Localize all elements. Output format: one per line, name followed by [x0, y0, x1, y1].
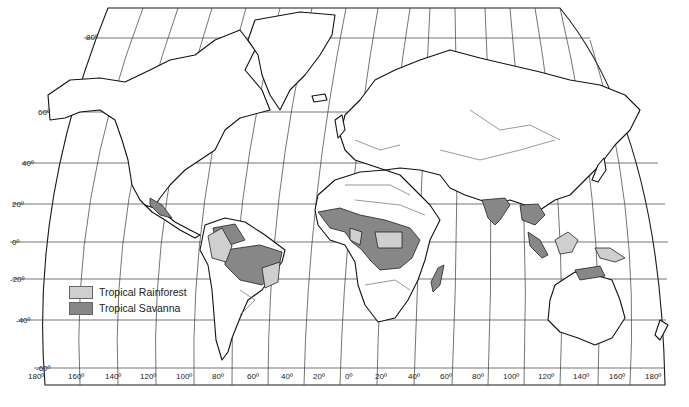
svg-text:80º: 80º	[86, 33, 98, 42]
svg-text:-40º: -40º	[16, 316, 31, 325]
madagascar	[431, 265, 444, 292]
iceland	[312, 94, 327, 102]
svg-text:40º: 40º	[22, 159, 34, 168]
svg-text:80º: 80º	[212, 372, 224, 381]
svg-text:160º: 160º	[609, 372, 625, 381]
legend-label: Tropical Savanna	[99, 302, 180, 314]
svg-text:180º: 180º	[28, 372, 44, 381]
svg-text:100º: 100º	[503, 372, 519, 381]
svg-text:60º: 60º	[440, 372, 452, 381]
svg-text:20º: 20º	[12, 200, 24, 209]
svg-text:140º: 140º	[105, 372, 121, 381]
map-legend: Tropical Rainforest Tropical Savanna	[69, 284, 187, 316]
svg-text:-20º: -20º	[10, 275, 25, 284]
svg-text:0º: 0º	[12, 238, 19, 247]
svg-text:160º: 160º	[68, 372, 84, 381]
central-america	[145, 205, 200, 238]
svg-text:60º: 60º	[247, 372, 259, 381]
savanna-swatch	[69, 302, 93, 315]
svg-text:0º: 0º	[345, 372, 352, 381]
svg-text:140º: 140º	[573, 372, 589, 381]
svg-text:120º: 120º	[140, 372, 156, 381]
svg-text:40º: 40º	[408, 372, 420, 381]
legend-item-rainforest: Tropical Rainforest	[69, 284, 187, 300]
world-map: 80º 60º 40º 20º 0º -20º -40º -60º 180º 1…	[0, 0, 689, 407]
longitude-labels: 180º 160º 140º 120º 100º 80º 60º 40º 20º…	[28, 372, 661, 381]
svg-text:20º: 20º	[375, 372, 387, 381]
borneo	[555, 232, 578, 254]
svg-text:40º: 40º	[281, 372, 293, 381]
australia	[548, 272, 625, 345]
new-guinea	[595, 248, 625, 262]
new-zealand	[655, 320, 668, 340]
svg-text:120º: 120º	[538, 372, 554, 381]
north-america	[48, 30, 270, 210]
svg-text:60º: 60º	[38, 108, 50, 117]
svg-text:20º: 20º	[313, 372, 325, 381]
svg-text:80º: 80º	[472, 372, 484, 381]
rainforest-swatch	[69, 286, 93, 299]
sumatra	[528, 232, 548, 258]
svg-text:100º: 100º	[176, 372, 192, 381]
legend-item-savanna: Tropical Savanna	[69, 300, 187, 316]
legend-label: Tropical Rainforest	[99, 286, 187, 298]
svg-text:180º: 180º	[645, 372, 661, 381]
